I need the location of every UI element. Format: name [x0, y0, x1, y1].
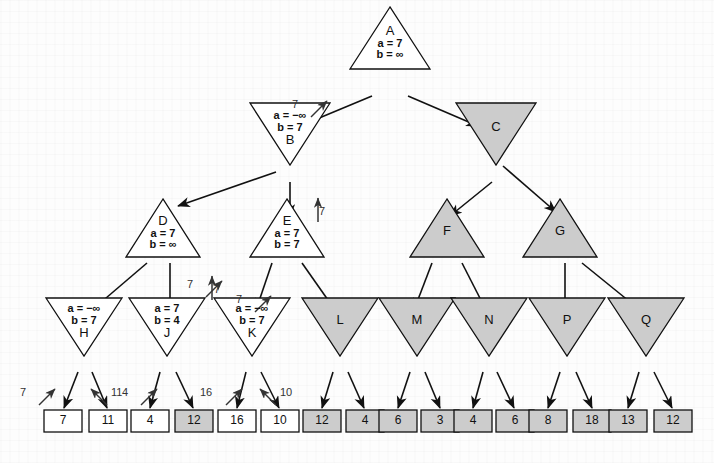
node-C-pruned	[456, 103, 536, 165]
node-E	[250, 199, 324, 257]
node-P-pruned	[529, 298, 605, 356]
tree-edge-L-l8	[348, 372, 364, 408]
node-B	[250, 103, 330, 165]
node-L-pruned	[302, 298, 378, 356]
tree-edge-N-l11	[473, 372, 483, 408]
node-H	[46, 298, 122, 356]
tree-edge-M-l10	[425, 372, 440, 408]
node-M-pruned	[379, 298, 455, 356]
return-arrow-1	[206, 281, 222, 297]
return-arrow-7	[141, 389, 157, 405]
node-F-pruned	[410, 199, 484, 257]
node-A	[350, 7, 430, 69]
node-D	[126, 199, 200, 257]
tree-nodes	[46, 7, 684, 356]
leaf-box-6-pruned	[303, 410, 341, 432]
leaf-box-14-pruned	[609, 410, 647, 432]
node-Q-pruned	[608, 298, 684, 356]
leaf-box-2	[131, 410, 169, 432]
leaf-box-7-pruned	[346, 410, 384, 432]
leaf-box-1	[89, 410, 127, 432]
leaf-box-13-pruned	[573, 410, 611, 432]
tree-edge-J-l4	[176, 372, 193, 408]
node-G-pruned	[523, 199, 597, 257]
tree-edge-C-F	[450, 182, 492, 216]
leaf-box-11-pruned	[496, 410, 534, 432]
tree-edge-M-l9	[398, 372, 410, 408]
leaf-box-0	[44, 410, 82, 432]
leaf-box-8-pruned	[379, 410, 417, 432]
tree-edge-B-D	[178, 172, 276, 206]
tree-edge-K-l6	[261, 372, 279, 408]
node-J	[129, 298, 205, 356]
leaf-box-9-pruned	[421, 410, 459, 432]
return-arrow-6	[91, 389, 107, 405]
tree-edge-P-l13	[548, 372, 560, 408]
leaf-box-3-pruned	[175, 410, 213, 432]
leaf-box-15-pruned	[654, 410, 692, 432]
leaf-box-12-pruned	[529, 410, 567, 432]
tree-graphics-layer	[0, 0, 714, 463]
tree-edge-P-l14	[576, 372, 592, 408]
tree-edge-H-l1	[64, 372, 78, 408]
node-K	[214, 298, 290, 356]
tree-edge-Q-l16	[654, 372, 672, 408]
leaf-box-4	[218, 410, 256, 432]
tree-edge-Q-l15	[628, 372, 639, 408]
tree-edge-N-l12	[497, 372, 514, 408]
leaf-box-10-pruned	[454, 410, 492, 432]
figure-canvas: Aa = 7b = ∞a = −∞b = 7BCDa = 7b = ∞Ea = …	[0, 0, 714, 463]
tree-edge-L-l7	[322, 372, 333, 408]
node-N-pruned	[451, 298, 527, 356]
tree-edge-C-G	[503, 166, 556, 212]
leaf-boxes	[44, 410, 692, 432]
return-arrow-5	[39, 389, 55, 405]
leaf-box-5	[261, 410, 299, 432]
